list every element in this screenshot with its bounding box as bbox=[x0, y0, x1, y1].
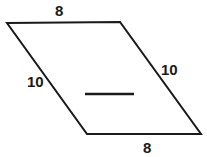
side-label-left: 10 bbox=[27, 74, 43, 89]
side-label-bottom: 8 bbox=[143, 140, 151, 155]
side-label-top: 8 bbox=[55, 3, 63, 18]
parallelogram-figure: 8 10 10 8 bbox=[0, 0, 207, 157]
side-label-right: 10 bbox=[161, 62, 177, 77]
